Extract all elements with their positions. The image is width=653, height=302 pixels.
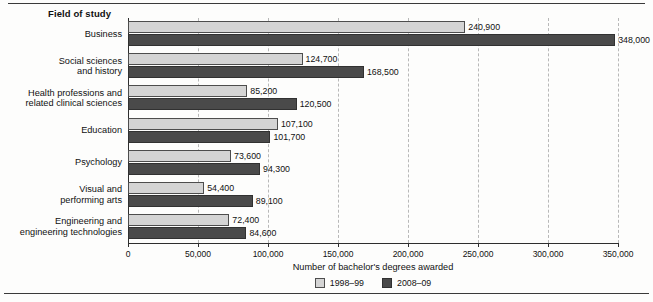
x-tick-label: 300,000 [533,249,564,259]
bar [128,214,229,226]
x-tick [128,243,129,247]
bar [128,163,260,175]
category-label: Education [4,125,122,136]
x-tick-label: 250,000 [463,249,494,259]
bar [128,182,204,194]
category-label-line: Psychology [4,157,122,168]
x-axis-title: Number of bachelor's degrees awarded [128,262,618,272]
plot-area: 240,900348,000124,700168,50085,200120,50… [128,18,618,243]
bar [128,118,278,130]
bar-group: 85,200120,500 [128,85,618,111]
category-label: Business [4,29,122,40]
category-label-line: Social sciences [4,56,122,67]
bar-value-label: 73,600 [234,150,261,162]
legend-label: 1998–99 [330,278,364,288]
bar [128,53,303,65]
bar [128,34,615,46]
category-label-line: performing arts [4,195,122,206]
bar-value-label: 348,000 [618,34,650,46]
chart-figure: Field of study BusinessSocial sciencesan… [0,0,653,302]
category-label-line: Business [4,29,122,40]
bar-value-label: 124,700 [306,53,338,65]
bar-value-label: 240,900 [468,21,500,33]
category-label: Visual andperforming arts [4,184,122,205]
bar-value-label: 84,600 [249,227,276,239]
x-tick-label: 50,000 [185,249,211,259]
bar-group: 124,700168,500 [128,53,618,79]
bottom-rule [4,293,649,294]
bar-group: 73,60094,300 [128,150,618,176]
category-label-column: BusinessSocial sciencesand historyHealth… [2,18,122,243]
bar [128,66,364,78]
category-label: Psychology [4,157,122,168]
bar-value-label: 89,100 [256,195,283,207]
category-label: Health professions andrelated clinical s… [4,88,122,109]
bar [128,21,465,33]
bar-value-label: 168,500 [367,66,399,78]
top-rule [8,3,645,4]
category-label-line: engineering technologies [4,227,122,238]
bar-value-label: 72,400 [232,214,259,226]
x-tick-label: 200,000 [393,249,424,259]
x-tick [338,243,339,247]
x-tick [198,243,199,247]
bar-group: 107,100101,700 [128,118,618,144]
bar [128,98,297,110]
gridline [618,18,619,243]
legend-swatch [315,278,325,288]
x-tick [548,243,549,247]
x-axis-line [128,243,618,244]
legend-label: 2008–09 [397,278,431,288]
legend: 1998–992008–09 [128,278,618,288]
bar [128,85,247,97]
x-tick [478,243,479,247]
category-label-line: Health professions and [4,88,122,99]
bar-value-label: 85,200 [250,85,277,97]
category-label-line: Engineering and [4,216,122,227]
category-label: Engineering andengineering technologies [4,216,122,237]
x-tick-label: 350,000 [603,249,634,259]
bar [128,227,246,239]
x-tick-label: 0 [126,249,131,259]
x-tick-label: 100,000 [253,249,284,259]
bar-group: 72,40084,600 [128,214,618,240]
bar [128,195,253,207]
category-label: Social sciencesand history [4,56,122,77]
bar-group: 240,900348,000 [128,21,618,47]
bar-value-label: 107,100 [281,118,313,130]
bar [128,150,231,162]
category-label-line: related clinical sciences [4,98,122,109]
bar-group: 54,40089,100 [128,182,618,208]
bar-value-label: 94,300 [263,163,290,175]
x-tick-label: 150,000 [323,249,354,259]
category-label-line: Visual and [4,184,122,195]
x-tick [408,243,409,247]
category-label-line: and history [4,66,122,77]
category-label-line: Education [4,125,122,136]
legend-item[interactable]: 2008–09 [382,278,431,288]
x-tick [618,243,619,247]
bar [128,131,270,143]
legend-swatch [382,278,392,288]
bar-value-label: 54,400 [207,182,234,194]
legend-item[interactable]: 1998–99 [315,278,364,288]
bar-value-label: 120,500 [300,98,332,110]
bar-value-label: 101,700 [273,131,305,143]
x-tick [268,243,269,247]
